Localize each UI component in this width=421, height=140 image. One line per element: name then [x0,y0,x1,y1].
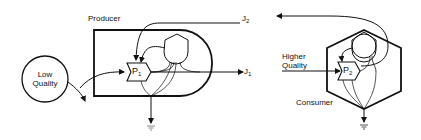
p1-subscript: 1 [138,71,141,77]
producer-boundary [94,30,212,96]
higher-quality-label: Higher Quality [282,52,307,70]
producer-feedback-loop [141,47,165,62]
p2-subscript: 2 [349,70,352,76]
j1-subscript: 1 [248,71,251,77]
higher-quality-label-line2: Quality [282,61,307,70]
low-quality-input-arrow [80,72,124,88]
flow-j2-label: J2 [242,14,249,26]
producer-storage-tank [164,34,188,64]
producer-label: Producer [88,14,120,23]
p1-label: P1 [132,67,141,79]
p2-label: P2 [343,66,352,78]
producer-loss-line-2 [151,62,172,96]
producer-loss-line-1 [141,81,151,96]
low-quality-label-line1: Low [30,70,60,79]
low-quality-label: Low Quality [30,70,60,88]
low-quality-label-line2: Quality [30,79,60,88]
producer-tank-to-output [180,62,200,72]
higher-quality-label-line1: Higher [282,52,307,61]
j2-subscript: 2 [246,18,249,24]
consumer-feedback-loop [342,48,352,61]
producer-heat-sink-ground-icon [147,126,155,130]
producer-tank-flow [151,62,170,72]
flow-j1-label: J1 [244,67,251,79]
energy-flow-diagram: Producer Low Quality P1 J1 J2 Higher Qua… [0,0,421,140]
consumer-label: Consumer [296,98,333,107]
diagram-graphics [0,0,421,140]
consumer-heat-sink-ground-icon [360,125,368,129]
